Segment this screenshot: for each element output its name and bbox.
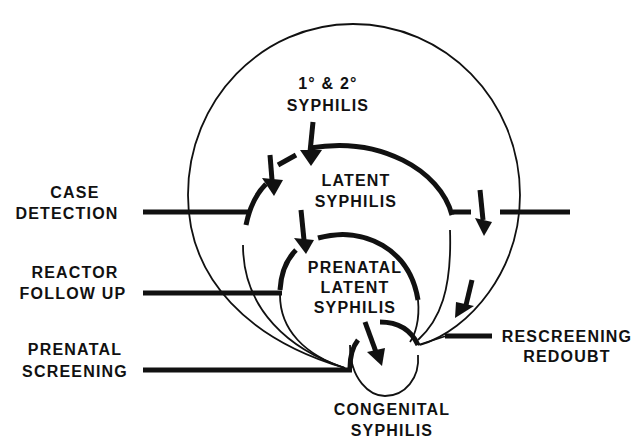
label-prenatal-screening-line2: SCREENING	[22, 363, 128, 380]
label-primary-secondary-line2: SYPHILIS	[287, 97, 370, 114]
congenital-circle-top-arc	[380, 322, 418, 345]
label-congenital-line2: SYPHILIS	[351, 422, 434, 439]
label-primary-secondary-line1: 1° & 2°	[298, 75, 357, 92]
label-latent-line1: LATENT	[321, 172, 390, 189]
prenatal-latent-circle-left-arc	[280, 250, 296, 290]
label-prenatal-latent-line1: PRENATAL	[308, 259, 402, 276]
label-case-detection-line2: DETECTION	[15, 205, 118, 222]
label-reactor-follow-up-line1: REACTOR	[31, 264, 118, 281]
arrow-primary-to-latent	[300, 122, 322, 166]
label-congenital-line1: CONGENITAL	[334, 401, 451, 418]
label-latent-line2: SYPHILIS	[315, 193, 398, 210]
label-rescreening-redoubt-line2: REDOUBT	[523, 348, 611, 365]
arrow-latent-to-prenatal	[294, 210, 314, 254]
congenital-circle-left-arc	[350, 340, 358, 368]
arrow-outer-right	[475, 190, 492, 236]
label-case-detection-line1: CASE	[50, 184, 99, 201]
label-prenatal-latent-line3: SYPHILIS	[314, 299, 397, 316]
arrow-prenatal-to-congenital	[365, 322, 385, 366]
label-rescreening-redoubt-line1: RESCREENING	[502, 328, 633, 345]
syphilis-progression-diagram: 1° & 2° SYPHILIS LATENT SYPHILIS PRENATA…	[0, 0, 644, 446]
latent-circle-lower-right	[418, 230, 450, 340]
latent-dash-1	[278, 155, 296, 165]
label-reactor-follow-up-line2: FOLLOW UP	[20, 285, 127, 302]
rescreening-connector	[418, 336, 446, 345]
label-prenatal-latent-line2: LATENT	[320, 279, 389, 296]
label-prenatal-screening-line1: PRENATAL	[28, 341, 122, 358]
latent-circle-left-arc	[246, 184, 266, 225]
